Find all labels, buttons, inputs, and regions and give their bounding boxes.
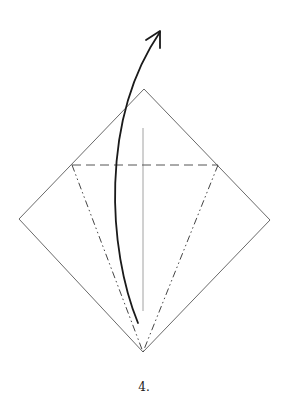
fold-arrow-curve [115, 32, 160, 323]
origami-diagram [0, 0, 288, 406]
mountain-fold-line-left [72, 165, 143, 352]
paper-square-outline [19, 89, 270, 352]
step-number-label: 4. [0, 380, 288, 394]
mountain-fold-line-right [143, 165, 218, 352]
